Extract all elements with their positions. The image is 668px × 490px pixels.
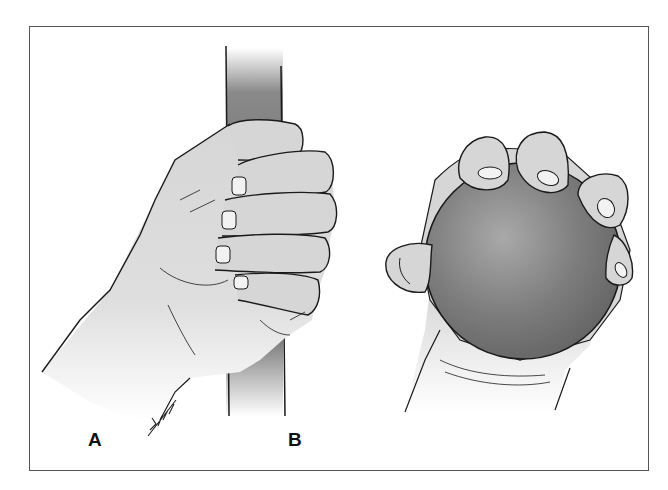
- gripping-hand-a: [42, 120, 337, 420]
- panel-a-illustration: [42, 46, 337, 436]
- panel-b-illustration: [386, 132, 633, 412]
- panel-label-a: A: [88, 429, 102, 451]
- panel-label-b: B: [288, 429, 302, 451]
- illustration: [0, 0, 668, 490]
